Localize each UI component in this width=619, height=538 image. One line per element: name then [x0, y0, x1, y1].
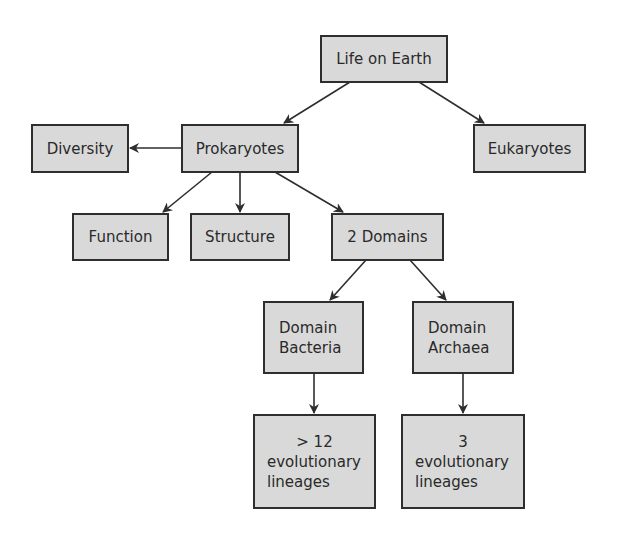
node-label: Eukaryotes [488, 139, 572, 159]
node-domain-archaea[interactable]: Domain Archaea [412, 301, 514, 374]
node-eukaryotes[interactable]: Eukaryotes [473, 124, 586, 173]
node-function[interactable]: Function [72, 213, 169, 261]
node-structure[interactable]: Structure [190, 213, 290, 261]
node-prokaryotes[interactable]: Prokaryotes [181, 124, 299, 173]
node-two-domains[interactable]: 2 Domains [331, 213, 444, 261]
node-label: Structure [205, 227, 275, 247]
node-label: 2 Domains [347, 227, 427, 247]
node-label-line: 3 [458, 432, 468, 452]
node-label-line: Bacteria [279, 338, 341, 358]
node-label-line: lineages [415, 472, 478, 492]
diagram-canvas: Life on Earth Diversity Prokaryotes Euka… [0, 0, 619, 538]
edge-life-to-prokaryotes [284, 82, 350, 123]
node-label-line: evolutionary [415, 452, 509, 472]
node-life-on-earth[interactable]: Life on Earth [320, 35, 448, 83]
node-domain-bacteria[interactable]: Domain Bacteria [263, 301, 364, 374]
node-label-line: Archaea [428, 338, 489, 358]
edge-domains-to-archaea [410, 260, 446, 300]
node-archaea-lineages[interactable]: 3 evolutionary lineages [401, 414, 525, 509]
edge-life-to-eukaryotes [419, 82, 484, 123]
node-label-line: > 12 [296, 432, 332, 452]
node-bacteria-lineages[interactable]: > 12 evolutionary lineages [253, 414, 376, 509]
node-label: Function [89, 227, 153, 247]
node-label-line: evolutionary [267, 452, 361, 472]
node-label-line: Domain [428, 318, 486, 338]
node-label-line: Domain [279, 318, 337, 338]
edge-prokaryotes-to-domains [275, 172, 343, 212]
edge-prokaryotes-to-function [163, 172, 212, 212]
node-label: Prokaryotes [196, 139, 285, 159]
node-label: Life on Earth [336, 49, 431, 69]
node-label-line: lineages [267, 472, 330, 492]
node-diversity[interactable]: Diversity [31, 124, 129, 173]
node-label: Diversity [47, 139, 114, 159]
edge-domains-to-bacteria [330, 260, 366, 300]
